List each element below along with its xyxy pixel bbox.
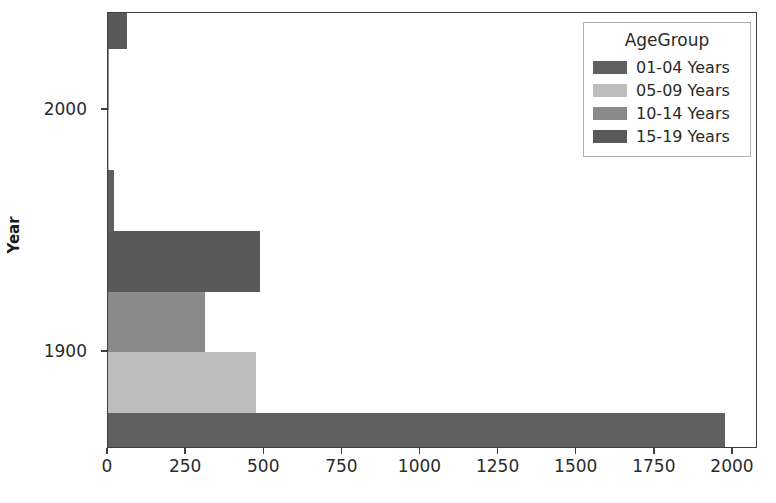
y-axis-tick-label: 1900 [0,341,97,361]
x-axis-tick-mark [106,448,107,454]
x-axis-tick-mark [575,448,576,454]
x-axis-tick-label: 0 [102,456,113,476]
x-axis-tick-label: 1250 [476,456,519,476]
legend-item-label: 10-14 Years [636,105,730,123]
legend-title: AgeGroup [593,30,741,50]
bar [108,413,725,448]
bar [108,12,127,49]
legend-item-label: 15-19 Years [636,128,730,146]
x-axis-tick-label: 1000 [398,456,441,476]
x-axis-tick-label: 250 [169,456,201,476]
x-axis-tick-label: 500 [247,456,279,476]
legend-item: 01-04 Years [593,56,741,79]
legend-swatch-icon [593,84,627,97]
bar [108,352,256,413]
legend-item: 10-14 Years [593,102,741,125]
x-axis-tick-label: 2000 [710,456,753,476]
legend-item-label: 01-04 Years [636,59,730,77]
bar [108,231,260,292]
legend-item: 15-19 Years [593,125,741,148]
x-axis-tick-label: 1500 [554,456,597,476]
x-axis-tick-mark [263,448,264,454]
x-axis-tick-mark [184,448,185,454]
legend-item: 05-09 Years [593,79,741,102]
legend-item-label: 05-09 Years [636,82,730,100]
bar [108,292,205,353]
legend-swatch-icon [593,130,627,143]
y-axis-tick-label: 2000 [0,99,97,119]
bar-chart-figure: Year 02505007501000125015001750200019002… [0,0,776,503]
legend-swatch-icon [593,107,627,120]
x-axis-tick-mark [341,448,342,454]
chart-legend: AgeGroup 01-04 Years05-09 Years10-14 Yea… [583,22,751,157]
x-axis-tick-mark [497,448,498,454]
y-axis-title: Year [5,216,23,253]
bar [108,170,114,231]
x-axis-tick-mark [731,448,732,454]
x-axis-tick-mark [419,448,420,454]
x-axis-tick-label: 750 [325,456,357,476]
bar [108,49,109,110]
x-axis-tick-label: 1750 [632,456,675,476]
legend-rows: 01-04 Years05-09 Years10-14 Years15-19 Y… [593,56,741,148]
x-axis-tick-mark [653,448,654,454]
legend-swatch-icon [593,61,627,74]
